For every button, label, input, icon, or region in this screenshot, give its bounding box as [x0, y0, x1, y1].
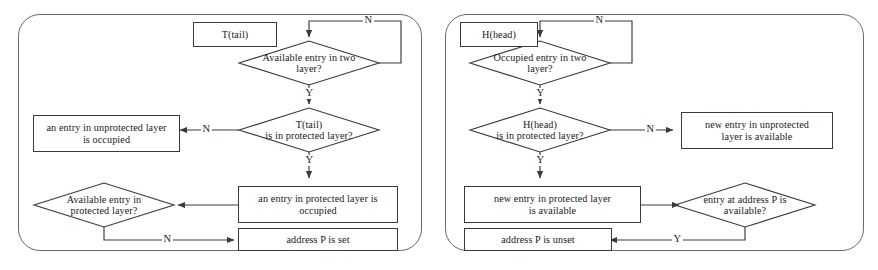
right-d3-line1: entry at address P is	[703, 194, 786, 205]
right-unprot-line2: layer is available	[722, 131, 793, 142]
left-label-n2: N	[201, 124, 212, 135]
left-d3-line1: Available entry in	[67, 194, 142, 205]
flowchart-figure: T(tail) Available entry in two layer? T(…	[0, 0, 878, 270]
left-unprotected-occupied-box: an entry in unprotected layer is occupie…	[33, 115, 180, 152]
left-address-set-box: address P is set	[238, 228, 398, 251]
left-start-label: T(tail)	[222, 29, 249, 40]
right-protected-available-box: new entry in protected layer is availabl…	[464, 186, 641, 223]
right-d2-line2: is in protected layer?	[496, 130, 583, 141]
left-label-y1: Y	[304, 88, 315, 99]
right-address-unset-box: address P is unset	[464, 228, 612, 251]
right-label-y1: Y	[535, 88, 546, 99]
left-d3-line2: protected layer?	[71, 205, 138, 216]
right-decision-entry-at-address-p: entry at address P is available?	[675, 183, 815, 227]
left-d1-line2: layer?	[296, 63, 321, 74]
right-decision-head-in-protected: H(head) is in protected layer?	[470, 108, 610, 152]
left-d2-line1: T(tail)	[296, 119, 323, 130]
left-label-y2: Y	[304, 155, 315, 166]
right-label-n1: N	[594, 15, 605, 26]
left-decision-tail-in-protected: T(tail) is in protected layer?	[239, 108, 379, 152]
right-start-label: H(head)	[482, 29, 516, 40]
right-protavail-line1: new entry in protected layer	[494, 193, 611, 204]
right-addr-unset-label: address P is unset	[501, 234, 575, 245]
left-label-n1: N	[363, 15, 374, 26]
right-protavail-line2: is available	[529, 205, 576, 216]
right-unprotected-available-box: new entry in unprotected layer is availa…	[681, 112, 833, 149]
left-d2-line2: is in protected layer?	[265, 130, 352, 141]
left-d1-line1: Available entry in two	[263, 52, 356, 63]
right-label-y3: Y	[672, 234, 683, 245]
right-label-y2: Y	[535, 155, 546, 166]
right-decision-occupied-two-layer: Occupied entry in two layer?	[470, 41, 610, 85]
right-d3-line2: available?	[724, 205, 766, 216]
left-decision-available-protected: Available entry in protected layer?	[34, 183, 174, 227]
right-unprot-line1: new entry in unprotected	[705, 119, 809, 130]
left-protocc-line1: an entry in protected layer is	[258, 193, 377, 204]
left-unprot-line1: an entry in unprotected layer	[46, 122, 166, 133]
left-unprot-line2: is occupied	[83, 134, 130, 145]
right-label-n2: N	[645, 124, 656, 135]
left-addr-set-label: address P is set	[286, 234, 349, 245]
left-protocc-line2: occupied	[299, 205, 337, 216]
right-d2-line1: H(head)	[523, 119, 557, 130]
left-protected-occupied-box: an entry in protected layer is occupied	[238, 186, 398, 223]
right-d1-line2: layer?	[527, 63, 552, 74]
right-d1-line1: Occupied entry in two	[494, 52, 587, 63]
left-label-n3: N	[162, 234, 173, 245]
left-decision-available-two-layer: Available entry in two layer?	[239, 41, 379, 85]
